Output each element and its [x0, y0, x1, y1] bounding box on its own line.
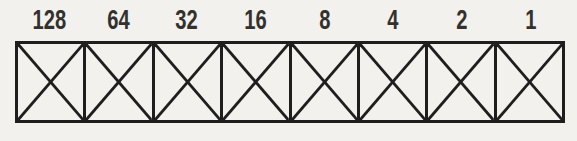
- place-value-labels-row: 1286432168421: [15, 3, 565, 37]
- label-slot: 8: [290, 3, 359, 37]
- place-value-label: 128: [33, 6, 67, 34]
- bit-cell: [18, 44, 83, 120]
- label-slot: 1: [496, 3, 565, 37]
- place-value-label: 32: [176, 6, 198, 34]
- place-value-label: 1: [525, 6, 536, 34]
- bit-cell: [289, 44, 357, 120]
- label-slot: 4: [359, 3, 428, 37]
- place-value-label: 64: [107, 6, 129, 34]
- x-mark-icon: [155, 44, 220, 120]
- label-slot: 128: [15, 3, 84, 37]
- x-mark-icon: [86, 44, 151, 120]
- place-value-strip: [15, 41, 565, 123]
- bit-cell: [425, 44, 493, 120]
- bit-cell: [494, 44, 562, 120]
- bit-cell: [152, 44, 220, 120]
- x-mark-icon: [497, 44, 562, 120]
- place-value-label: 16: [244, 6, 266, 34]
- label-slot: 32: [153, 3, 222, 37]
- label-slot: 16: [221, 3, 290, 37]
- bit-cell: [357, 44, 425, 120]
- label-slot: 64: [84, 3, 153, 37]
- bit-cell: [220, 44, 288, 120]
- place-value-label: 8: [319, 6, 330, 34]
- x-mark-icon: [223, 44, 288, 120]
- binary-place-value-diagram: 1286432168421: [0, 0, 577, 141]
- x-mark-icon: [428, 44, 493, 120]
- x-mark-icon: [18, 44, 83, 120]
- x-mark-icon: [360, 44, 425, 120]
- bit-cell: [83, 44, 151, 120]
- label-slot: 2: [428, 3, 497, 37]
- x-mark-icon: [292, 44, 357, 120]
- place-value-label: 2: [456, 6, 467, 34]
- place-value-label: 4: [388, 6, 399, 34]
